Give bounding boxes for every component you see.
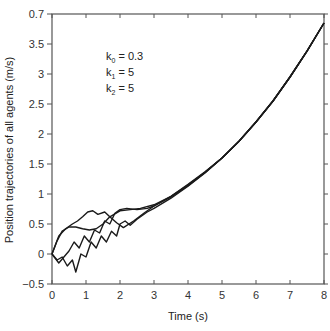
annotation-k1: k1 = 5	[106, 66, 134, 80]
trajectory-chart: −0.500.511.522.533.50.7 012345678 k0 = 0…	[0, 0, 330, 331]
x-tick-label: 3	[151, 289, 157, 301]
x-tick-label: 4	[185, 289, 191, 301]
x-tick-label: 0	[49, 289, 55, 301]
x-tick-label: 8	[321, 289, 327, 301]
series-line-agent-1	[52, 23, 324, 254]
y-tick-label: 1.5	[29, 158, 44, 170]
x-tick-label: 5	[219, 289, 225, 301]
series-line-agent-4	[52, 23, 324, 263]
y-tick-label: 1	[38, 188, 44, 200]
y-axis-label: Position trajectories of all agents (m/s…	[3, 57, 15, 243]
y-tick-label: 2	[38, 128, 44, 140]
y-tick-label: 3.5	[29, 38, 44, 50]
annotation-k0: k0 = 0.3	[106, 50, 143, 64]
x-axis-ticks: 012345678	[49, 14, 327, 301]
x-tick-label: 1	[83, 289, 89, 301]
series-lines	[52, 23, 324, 272]
y-tick-label: 3	[38, 68, 44, 80]
y-axis-ticks: −0.500.511.522.533.50.7	[22, 8, 328, 290]
y-tick-label: −0.5	[22, 278, 44, 290]
x-tick-label: 7	[287, 289, 293, 301]
y-tick-label: 0.5	[29, 218, 44, 230]
x-tick-label: 2	[117, 289, 123, 301]
x-tick-label: 6	[253, 289, 259, 301]
annotation-k2: k2 = 5	[106, 82, 134, 96]
x-axis-label: Time (s)	[168, 310, 208, 322]
series-line-agent-2	[52, 23, 324, 254]
parameter-annotations: k0 = 0.3 k1 = 5 k2 = 5	[106, 50, 143, 96]
y-tick-label: 0	[38, 248, 44, 260]
y-tick-label: 0.7	[29, 8, 44, 20]
y-tick-label: 2.5	[29, 98, 44, 110]
